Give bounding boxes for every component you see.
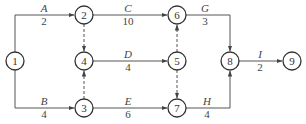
activity-duration-a: 2 [41,15,47,27]
node-label-1: 1 [12,55,18,67]
activity-duration-e: 6 [125,108,131,120]
node-label-2: 2 [81,9,87,21]
activity-label-i: I [257,48,263,60]
activity-label-h: H [202,95,212,107]
node-label-8: 8 [227,55,233,67]
activity-label-c: C [124,2,132,14]
activity-label-g: G [201,2,209,14]
activity-duration-d: 4 [125,61,131,73]
activity-duration-h: 4 [204,108,210,120]
activity-arrow-g [186,15,230,51]
node-label-9: 9 [289,55,295,67]
activity-label-b: B [41,95,48,107]
node-label-4: 4 [81,55,87,67]
activity-label-e: E [124,95,132,107]
activity-duration-b: 4 [41,108,47,120]
activity-duration-i: 2 [257,61,263,73]
activity-duration-c: 10 [123,15,135,27]
node-label-3: 3 [81,102,87,114]
activity-label-d: D [123,48,132,60]
activity-duration-g: 3 [202,15,208,27]
node-label-7: 7 [174,102,180,114]
node-label-5: 5 [174,55,180,67]
node-label-6: 6 [174,9,180,21]
network-diagram: A 2 B 4 C 10 D 4 E 6 G 3 H 4 I 2 1 2 3 4… [0,0,306,124]
activity-label-a: A [40,2,48,14]
